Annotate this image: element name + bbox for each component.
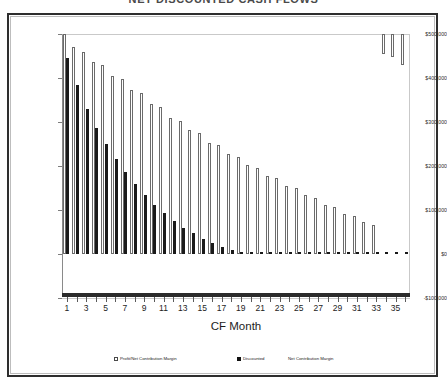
x-axis-tick (260, 297, 261, 302)
bar-group (246, 34, 255, 254)
bar-group (217, 34, 226, 254)
x-axis-tick (96, 297, 97, 302)
x-axis-tick (347, 297, 348, 302)
bar-discounted-net-contribution-margin (115, 159, 118, 254)
bar-profit-net-contribution-margin (101, 65, 104, 254)
legend-swatch-white (114, 357, 118, 361)
x-axis-tick (173, 297, 174, 302)
bar-profit-net-contribution-margin (150, 104, 153, 254)
bar-group (284, 34, 293, 254)
bar-discounted-net-contribution-margin (144, 195, 147, 254)
bar-discounted-net-contribution-margin (211, 243, 214, 254)
bar-discounted-net-contribution-margin (173, 221, 176, 254)
x-axis-label: 35 (388, 303, 404, 313)
bar-group (362, 34, 371, 254)
legend-label: Discounted (243, 356, 265, 362)
legend-item: Net Contribution Margin (288, 356, 333, 362)
bar-group (197, 34, 206, 254)
bar-profit-net-contribution-margin (333, 207, 336, 254)
bar-profit-net-contribution-margin (353, 216, 356, 254)
bar-discounted-net-contribution-margin (192, 233, 195, 254)
x-axis-tick (251, 297, 252, 302)
x-axis-tick (241, 297, 242, 302)
bar-discounted-net-contribution-margin (221, 247, 224, 254)
bar-group (188, 34, 197, 254)
bar-profit-net-contribution-margin (275, 178, 278, 254)
x-axis-tick (144, 297, 145, 302)
bar-profit-net-contribution-margin (314, 198, 317, 254)
x-axis-label: 21 (252, 303, 268, 313)
bar-discounted-net-contribution-margin (308, 252, 311, 254)
x-axis-tick (289, 297, 290, 302)
x-axis-tick (135, 297, 136, 302)
bar-group (101, 34, 110, 254)
bar-group (149, 34, 158, 254)
chart-title: NET DISCOUNTED CASH FLOWS (0, 0, 447, 7)
bar-group (120, 34, 129, 254)
x-axis-tick (338, 297, 339, 302)
x-axis-label: 19 (233, 303, 249, 313)
bar-group (62, 34, 71, 254)
x-axis-tick (106, 297, 107, 302)
bar-profit-net-contribution-margin (391, 34, 394, 57)
bar-discounted-net-contribution-margin (76, 85, 79, 254)
x-axis-tick (396, 297, 397, 302)
bar-group (342, 34, 351, 254)
bar-profit-net-contribution-margin (188, 130, 191, 254)
x-axis-label: 7 (117, 303, 133, 313)
x-axis-label: 33 (368, 303, 384, 313)
x-axis-tick (299, 297, 300, 302)
bar-discounted-net-contribution-margin (66, 58, 69, 254)
bar-profit-net-contribution-margin (285, 186, 288, 254)
bar-group (110, 34, 119, 254)
x-axis-tick (193, 297, 194, 302)
bar-discounted-net-contribution-margin (202, 239, 205, 254)
bar-group (130, 34, 139, 254)
x-axis-tick (231, 297, 232, 302)
x-axis-label: 1 (59, 303, 75, 313)
x-axis-tick (318, 297, 319, 302)
bar-group (72, 34, 81, 254)
bar-profit-net-contribution-margin (169, 118, 172, 254)
x-axis-tick (183, 297, 184, 302)
bar-discounted-net-contribution-margin (260, 252, 263, 254)
x-axis-tick (309, 297, 310, 302)
bar-profit-net-contribution-margin (130, 90, 133, 254)
bar-profit-net-contribution-margin (111, 76, 114, 254)
bar-profit-net-contribution-margin (256, 168, 259, 254)
x-axis-tick (357, 297, 358, 302)
bar-profit-net-contribution-margin (198, 133, 201, 254)
bar-profit-net-contribution-margin (140, 93, 143, 254)
bar-profit-net-contribution-margin (304, 195, 307, 254)
bar-profit-net-contribution-margin (159, 107, 162, 254)
x-axis-tick (154, 297, 155, 302)
bar-profit-net-contribution-margin (372, 225, 375, 254)
bar-profit-net-contribution-margin (362, 222, 365, 254)
bar-profit-net-contribution-margin (343, 214, 346, 254)
bar-discounted-net-contribution-margin (250, 252, 253, 254)
bar-group (371, 34, 380, 254)
bar-profit-net-contribution-margin (82, 52, 85, 254)
bar-profit-net-contribution-margin (401, 34, 404, 65)
bar-group (168, 34, 177, 254)
bar-discounted-net-contribution-margin (124, 172, 127, 254)
x-axis-label: 17 (214, 303, 230, 313)
x-axis-label: 5 (98, 303, 114, 313)
x-axis-label: 9 (136, 303, 152, 313)
bar-profit-net-contribution-margin (266, 176, 269, 254)
bar-discounted-net-contribution-margin (279, 252, 282, 254)
chart-screenshot: NET DISCOUNTED CASH FLOWS $500,000$400,0… (0, 0, 447, 389)
bar-discounted-net-contribution-margin (347, 252, 350, 254)
x-axis-tick (280, 297, 281, 302)
bar-discounted-net-contribution-margin (337, 252, 340, 254)
x-axis-label: 15 (194, 303, 210, 313)
legend-label: Profit/Net Contribution Margin (120, 356, 177, 362)
bar-profit-net-contribution-margin (217, 145, 220, 254)
bar-profit-net-contribution-margin (246, 165, 249, 254)
bar-group (381, 34, 390, 254)
bar-group (226, 34, 235, 254)
bar-group (159, 34, 168, 254)
x-axis-tick (367, 297, 368, 302)
bar-discounted-net-contribution-margin (240, 252, 243, 254)
x-axis-tick (125, 297, 126, 302)
